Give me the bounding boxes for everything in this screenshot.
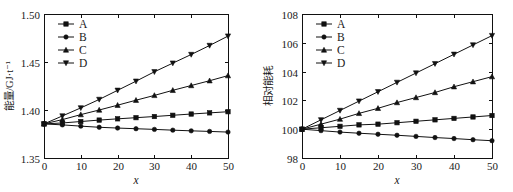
legend-item-A[interactable]: A [316, 18, 346, 30]
figure-container: 010203040501.351.401.451.50x能量/GJ·t⁻¹ABC… [0, 0, 513, 192]
x-tick-label-10: 10 [335, 160, 347, 172]
marker-B-1 [60, 123, 64, 127]
marker-B-legend [322, 35, 326, 39]
marker-D-8 [451, 52, 456, 57]
marker-A-9 [471, 115, 475, 119]
chart-panel-left: 010203040501.351.401.451.50x能量/GJ·t⁻¹ABC… [0, 0, 256, 192]
marker-A-8 [452, 116, 456, 120]
marker-D-7 [170, 61, 175, 66]
marker-A-4 [376, 122, 380, 126]
marker-B-5 [395, 133, 399, 137]
marker-D-5 [133, 79, 138, 84]
marker-D-6 [413, 71, 418, 76]
legend-item-B[interactable]: B [58, 31, 87, 43]
marker-A-6 [414, 119, 418, 123]
marker-C-10 [489, 74, 494, 79]
plot-frame [45, 15, 229, 159]
marker-A-legend [322, 22, 326, 26]
chart-panel-right: 0102030405098100102104106108x相对能耗ABCD [256, 0, 513, 192]
legend-item-B[interactable]: B [316, 31, 345, 43]
legend-item-C[interactable]: C [58, 44, 87, 56]
marker-D-5 [394, 80, 399, 85]
marker-A-7 [433, 118, 437, 122]
x-tick-label-40: 40 [186, 160, 198, 172]
marker-B-10 [490, 139, 494, 143]
marker-B-4 [376, 132, 380, 136]
y-tick-label-98: 98 [287, 153, 299, 165]
marker-A-10 [226, 110, 230, 114]
y-axis-title: 相对能耗 [262, 65, 274, 106]
marker-B-2 [79, 124, 83, 128]
marker-B-7 [171, 128, 175, 132]
legend-label-B: B [79, 31, 87, 43]
marker-B-3 [97, 125, 101, 129]
marker-B-legend [64, 35, 68, 39]
y-tick-label-106: 106 [282, 38, 299, 50]
marker-D-4 [115, 88, 120, 93]
x-axis-title: x [132, 174, 139, 186]
marker-A-5 [134, 115, 138, 119]
y-tick-label-1.35: 1.35 [21, 153, 41, 165]
marker-D-6 [152, 70, 157, 75]
legend-label-C: C [79, 44, 87, 56]
y-tick-label-108: 108 [282, 9, 299, 21]
marker-A-6 [152, 114, 156, 118]
marker-D-10 [489, 33, 494, 38]
marker-B-4 [115, 126, 119, 130]
legend-label-D: D [79, 57, 87, 69]
y-tick-label-1.45: 1.45 [21, 57, 41, 69]
series-D [41, 34, 230, 127]
y-tick-label-1.5: 1.50 [21, 9, 41, 21]
marker-B-9 [207, 129, 211, 133]
y-tick-label-102: 102 [282, 95, 299, 107]
marker-A-legend [64, 22, 68, 26]
marker-B-5 [134, 127, 138, 131]
marker-A-3 [357, 123, 361, 127]
marker-D-9 [470, 43, 475, 48]
legend-label-C: C [337, 44, 345, 56]
marker-D-8 [189, 52, 194, 57]
marker-B-6 [152, 127, 156, 131]
x-tick-label-20: 20 [113, 160, 125, 172]
x-tick-label-50: 50 [487, 160, 499, 172]
marker-D-2 [78, 106, 83, 111]
marker-B-8 [189, 129, 193, 133]
marker-B-9 [471, 138, 475, 142]
marker-A-10 [490, 113, 494, 117]
legend-label-A: A [79, 18, 88, 30]
right-chart-svg: 0102030405098100102104106108x相对能耗ABCD [256, 0, 513, 192]
left-chart-svg: 010203040501.351.401.451.50x能量/GJ·t⁻¹ABC… [0, 0, 256, 192]
marker-A-3 [97, 118, 101, 122]
marker-D-4 [375, 90, 380, 95]
marker-A-2 [79, 119, 83, 123]
y-axis-title: 能量/GJ·t⁻¹ [3, 61, 15, 111]
marker-D-9 [207, 43, 212, 48]
y-tick-label-100: 100 [282, 124, 299, 136]
marker-D-1 [318, 118, 323, 123]
marker-D-3 [356, 99, 361, 104]
x-tick-label-20: 20 [373, 160, 385, 172]
x-tick-label-50: 50 [223, 160, 235, 172]
y-tick-label-104: 104 [282, 67, 299, 79]
x-tick-label-30: 30 [149, 160, 161, 172]
x-axis-title: x [393, 174, 400, 186]
legend-label-A: A [337, 18, 346, 30]
legend: ABCD [58, 18, 88, 69]
marker-C-10 [225, 73, 230, 78]
marker-B-1 [319, 128, 323, 132]
marker-B-2 [338, 130, 342, 134]
legend-item-A[interactable]: A [58, 18, 88, 30]
marker-A-8 [189, 112, 193, 116]
legend-item-D[interactable]: D [58, 57, 87, 69]
marker-D-2 [337, 108, 342, 113]
legend-item-D[interactable]: D [316, 57, 345, 69]
legend-label-B: B [337, 31, 345, 43]
marker-B-10 [226, 130, 230, 134]
legend-item-C[interactable]: C [316, 44, 345, 56]
x-tick-label-0: 0 [42, 160, 48, 172]
legend-label-D: D [337, 57, 345, 69]
marker-B-7 [433, 135, 437, 139]
x-tick-label-10: 10 [76, 160, 88, 172]
y-tick-label-1.4: 1.40 [21, 105, 41, 117]
x-tick-label-40: 40 [449, 160, 461, 172]
